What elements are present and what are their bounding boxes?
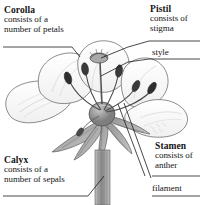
calyx-line-2: number of sepals bbox=[4, 175, 65, 185]
flower-anatomy-diagram: Corolla consists of a number of petals P… bbox=[0, 0, 202, 205]
annotation-style: style bbox=[152, 47, 169, 57]
corolla-line-2: number of petals bbox=[4, 25, 64, 35]
annotation-filament: filament bbox=[152, 183, 182, 193]
annotation-pistil: Pistil consists of stigma bbox=[150, 4, 188, 34]
annotation-corolla: Corolla consists of a number of petals bbox=[4, 5, 64, 35]
annotation-stamen: Stamen consists of anther bbox=[155, 141, 193, 171]
pistil-line-2: stigma bbox=[150, 24, 188, 34]
stamen-line-2: anther bbox=[155, 161, 193, 171]
annotation-calyx: Calyx consists of a number of sepals bbox=[4, 155, 65, 185]
